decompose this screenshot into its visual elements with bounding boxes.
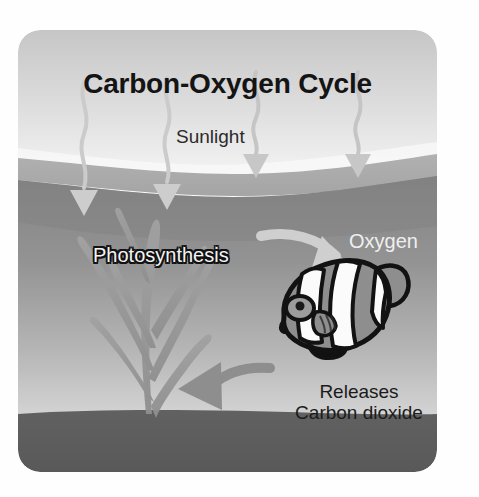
label-sunlight: Sunlight <box>176 126 245 147</box>
cycle-card: Carbon-Oxygen Cycle Sunlight Photosynthe… <box>18 30 437 472</box>
diagram-canvas: Carbon-Oxygen Cycle Sunlight Photosynthe… <box>0 0 479 497</box>
page-title: Carbon-Oxygen Cycle <box>18 70 437 98</box>
label-oxygen: Oxygen <box>349 230 418 252</box>
label-carbon-dioxide-text: Carbon dioxide <box>275 402 437 423</box>
label-photosynthesis: Photosynthesis <box>93 244 229 266</box>
label-carbon-dioxide: Releases Carbon dioxide <box>275 381 437 424</box>
label-releases: Releases <box>275 381 437 402</box>
